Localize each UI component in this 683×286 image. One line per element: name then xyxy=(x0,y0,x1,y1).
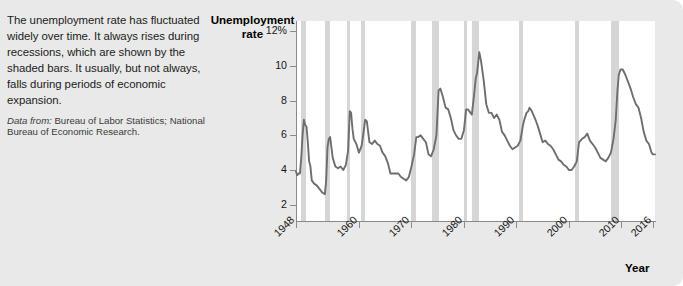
caption-block: The unemployment rate has fluctuated wid… xyxy=(7,12,207,138)
figure-panel: The unemployment rate has fluctuated wid… xyxy=(0,0,683,286)
caption-text: The unemployment rate has fluctuated wid… xyxy=(7,12,207,109)
x-tick-mark xyxy=(464,222,465,228)
x-tick-mark xyxy=(359,222,360,228)
x-tick-mark xyxy=(621,222,622,228)
source-note: Data from: Bureau of Labor Statistics; N… xyxy=(7,115,207,138)
y-tick-label: 2 xyxy=(281,199,287,209)
y-tick-label: 4 xyxy=(281,164,287,174)
y-tick-label: 8 xyxy=(281,95,287,105)
unemployment-rate-chart: Unemployment rate 12%108642 194819601970… xyxy=(204,0,683,286)
y-tick-label: 10 xyxy=(275,60,287,70)
y-axis-title-line2: rate xyxy=(242,27,263,40)
x-tick-mark xyxy=(653,222,654,228)
unemployment-line xyxy=(296,52,655,194)
source-label: Data from: xyxy=(7,115,52,126)
x-tick-mark xyxy=(569,222,570,228)
x-tick-mark xyxy=(411,222,412,228)
y-tick-label: 12% xyxy=(266,25,287,35)
x-axis-title: Year xyxy=(625,261,650,274)
x-tick-mark xyxy=(296,222,297,228)
x-tick-mark xyxy=(516,222,517,228)
y-tick-label: 6 xyxy=(281,129,287,139)
unemployment-series xyxy=(296,21,655,222)
x-tick-label: 1948 xyxy=(272,214,296,238)
